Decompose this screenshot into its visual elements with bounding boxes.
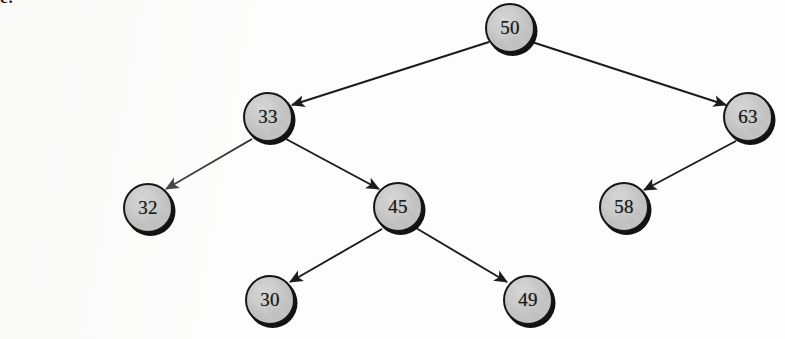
figure-corner-label: c. [0, 0, 14, 3]
tree-node: 50 [485, 3, 535, 53]
tree-edge [292, 42, 489, 105]
tree-edge [166, 139, 252, 189]
tree-node: 63 [723, 92, 773, 142]
tree-node: 32 [123, 183, 173, 233]
tree-node: 45 [373, 182, 423, 232]
tree-edge [286, 139, 379, 189]
tree-node-label: 49 [518, 290, 538, 309]
tree-edge [416, 228, 507, 282]
tree-node: 30 [245, 275, 295, 325]
tree-node-label: 45 [388, 197, 408, 216]
tree-edge [532, 42, 726, 105]
tree-node-label: 50 [500, 18, 520, 37]
tree-diagram-figure: c. 5033633245583049 [0, 0, 785, 339]
edge-group [166, 42, 736, 282]
tree-node: 33 [243, 92, 293, 142]
tree-edge [290, 229, 382, 282]
tree-node-label: 58 [614, 197, 634, 216]
tree-edges-layer [0, 0, 785, 339]
tree-node: 58 [599, 182, 649, 232]
tree-node-label: 32 [138, 198, 158, 217]
tree-node-label: 63 [738, 107, 758, 126]
tree-edge [644, 141, 736, 190]
tree-node-label: 30 [260, 290, 280, 309]
tree-node: 49 [503, 275, 553, 325]
tree-node-label: 33 [258, 107, 278, 126]
